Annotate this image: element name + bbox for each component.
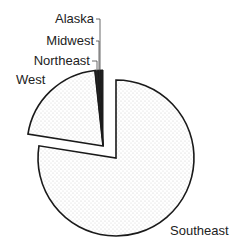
label-west: West <box>16 72 46 87</box>
pie-chart: Alaska Midwest Northeast West Southeast <box>0 0 247 249</box>
pie-slices <box>28 70 194 236</box>
label-alaska: Alaska <box>55 11 95 26</box>
label-southeast: Southeast <box>170 223 229 238</box>
label-northeast: Northeast <box>34 53 91 68</box>
label-midwest: Midwest <box>46 33 94 48</box>
leader-line-midwest <box>96 41 99 70</box>
leader-line-northeast <box>92 61 97 70</box>
